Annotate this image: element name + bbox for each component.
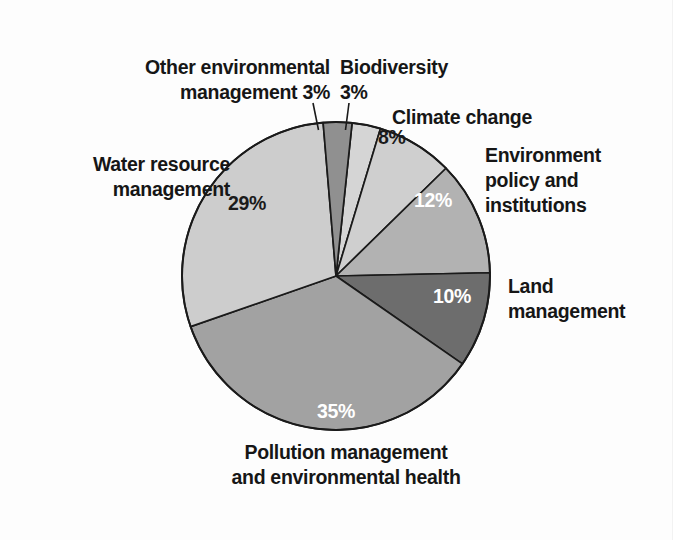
label-pollution-management-and-environmental-health: Pollution management and environmental h…: [196, 440, 496, 490]
page-edge-shadow: [672, 0, 695, 540]
label-environment-policy-and-institutions: Environment policy and institutions: [485, 143, 665, 218]
slice-percent-water-resource-management: 29%: [228, 192, 266, 215]
label-water-resource-management: Water resource management: [40, 152, 230, 202]
label-climate-change: Climate change: [392, 105, 592, 130]
slice-percent-climate-change: 8%: [378, 126, 406, 149]
pie-chart-figure: Other environmental management 3% Biodiv…: [0, 0, 695, 540]
label-land-management: Land management: [508, 274, 678, 324]
label-other-environmental-management: Other environmental management 3%: [108, 55, 330, 105]
slice-percent-pollution-management: 35%: [317, 400, 355, 423]
slice-percent-land-management: 10%: [433, 285, 471, 308]
slice-percent-environment-policy: 12%: [414, 189, 452, 212]
label-biodiversity: Biodiversity 3%: [340, 55, 470, 105]
